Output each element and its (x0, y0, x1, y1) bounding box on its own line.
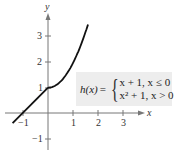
formula-equals: = (100, 83, 106, 95)
formula-case-1: x + 1, x ≤ 0 (119, 76, 173, 89)
piecewise-formula: h(x) = { x + 1, x ≤ 0 x² + 1, x > 0 (80, 75, 174, 103)
y-tick-label-2: 2 (37, 56, 42, 67)
formula-lhs: h(x) (80, 83, 98, 95)
x-tick-label-neg1: −1 (18, 117, 29, 128)
x-tick-label-1: 1 (71, 117, 76, 128)
x-tick-label-3: 3 (121, 117, 126, 128)
y-tick-label-1: 1 (38, 82, 43, 93)
x-axis-label: x (146, 107, 152, 118)
brace-icon: { (111, 75, 119, 103)
y-tick-label-neg1: −1 (32, 133, 43, 144)
function-curve-linear (13, 88, 48, 123)
y-axis-label: y (44, 1, 50, 12)
y-tick-label-3: 3 (37, 30, 42, 41)
formula-cases: x + 1, x ≤ 0 x² + 1, x > 0 (119, 76, 173, 102)
y-axis-arrow-icon (46, 13, 51, 20)
x-tick-label-2: 2 (96, 117, 101, 128)
formula-case-2: x² + 1, x > 0 (119, 89, 173, 102)
x-axis-arrow-icon (138, 111, 145, 116)
